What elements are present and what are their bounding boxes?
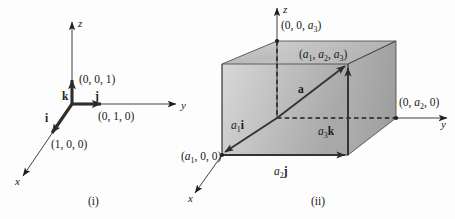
panel-i-label-j: j (94, 90, 99, 103)
panel-ii-point-x-intercept: (a1, 0, 0) (181, 150, 222, 165)
panel-ii-point-z-intercept: (0, 0, a3) (281, 19, 322, 34)
vector-components-figure: z y x k j i (0, 0, 1) (0, 1, 0) (1, 0, 0… (0, 0, 455, 219)
panel-i-point-x-unit: (1, 0, 0) (51, 138, 88, 151)
z-int-post: ) (318, 19, 322, 32)
panel-ii: z y x (0, 0, a3) (a1, a2, a3) (0, a2, 0)… (181, 3, 447, 208)
panel-i-label-i: i (45, 112, 49, 124)
panel-i: z y x k j i (0, 0, 1) (0, 1, 0) (1, 0, 0… (14, 17, 186, 208)
figure-svg: z y x k j i (0, 0, 1) (0, 1, 0) (1, 0, 0… (0, 0, 455, 219)
panel-ii-caption: (ii) (311, 195, 325, 208)
a3k-unit: k (328, 125, 335, 137)
panel-ii-label-a2j: a2j (274, 165, 288, 180)
panel-ii-x-axis-label: x (187, 192, 193, 204)
a2j-unit: j (283, 165, 288, 178)
yi-pre: (0, (399, 96, 414, 109)
panel-ii-y-axis-label: y (440, 118, 446, 130)
panel-ii-point-y-intercept: (0, a2, 0) (399, 96, 440, 111)
panel-ii-z-axis-label: z (282, 3, 288, 15)
z-int-pre: (0, 0, (281, 19, 308, 32)
panel-ii-label-a: a (298, 83, 304, 95)
panel-ii-corner-dot-y (394, 116, 398, 120)
panel-i-caption: (i) (88, 195, 99, 208)
xi-post: , 0, 0) (195, 150, 222, 163)
panel-i-point-z-unit: (0, 0, 1) (79, 73, 116, 86)
panel-i-vector-i (52, 104, 72, 133)
panel-ii-corner-dot-z (275, 39, 279, 43)
panel-i-y-axis-label: y (180, 99, 186, 111)
panel-i-x-axis-label: x (14, 175, 20, 187)
tip-rp: ) (344, 48, 348, 61)
panel-i-z-axis-label: z (77, 17, 83, 29)
panel-i-point-y-unit: (0, 1, 0) (98, 110, 135, 123)
yi-post: , 0) (424, 96, 440, 109)
panel-i-label-k: k (62, 90, 69, 102)
